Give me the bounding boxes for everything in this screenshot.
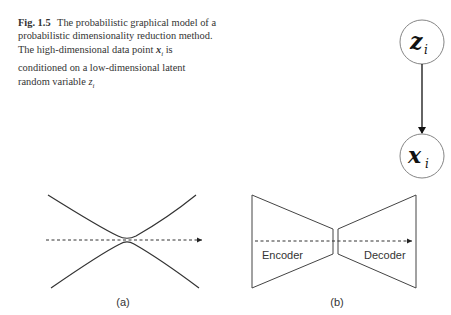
decoder-label: Decoder — [364, 249, 406, 261]
upper-curve — [48, 195, 196, 238]
node-z-subscript: i — [424, 43, 428, 57]
lower-curve — [51, 242, 199, 288]
encoder-shape — [252, 195, 333, 288]
node-z-symbol: z — [409, 28, 423, 54]
encoder-label: Encoder — [262, 249, 303, 261]
label-b: (b) — [330, 296, 343, 308]
node-x-subscript: i — [425, 157, 429, 171]
diagram-a: (a) — [46, 195, 202, 308]
graphical-model: z i x i — [400, 20, 444, 178]
node-x — [400, 134, 444, 178]
label-a: (a) — [116, 296, 129, 308]
diagram-b: Encoder Decoder (b) — [252, 195, 416, 308]
figure-canvas: z i x i (a) Encoder Decoder (b) — [0, 0, 451, 315]
node-x-symbol: x — [407, 142, 422, 168]
